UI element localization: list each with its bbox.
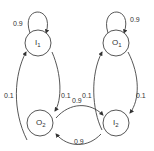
edge-o2-i1 [16, 52, 27, 140]
edge-i2-o1 [94, 52, 102, 130]
state-diagram: I1 O1 O2 I2 0.9 0.9 0.1 0.1 0.1 0.1 0.9 … [0, 0, 154, 151]
edge-label-o2-i1: 0.1 [4, 92, 14, 99]
edge-label-i2-o1: 0.1 [82, 92, 92, 99]
edge-label-o1-i2: 0.1 [136, 92, 146, 99]
edge-i1-o2 [52, 52, 60, 111]
edge-label-o2-i2: 0.9 [72, 97, 82, 104]
edge-label-i1-o2: 0.1 [61, 92, 71, 99]
edge-label-i1-self: 0.9 [13, 20, 23, 27]
edge-label-o1-self: 0.9 [130, 16, 140, 23]
edge-o1-i2 [128, 52, 137, 113]
edge-label-i2-o2: 0.9 [74, 138, 84, 145]
